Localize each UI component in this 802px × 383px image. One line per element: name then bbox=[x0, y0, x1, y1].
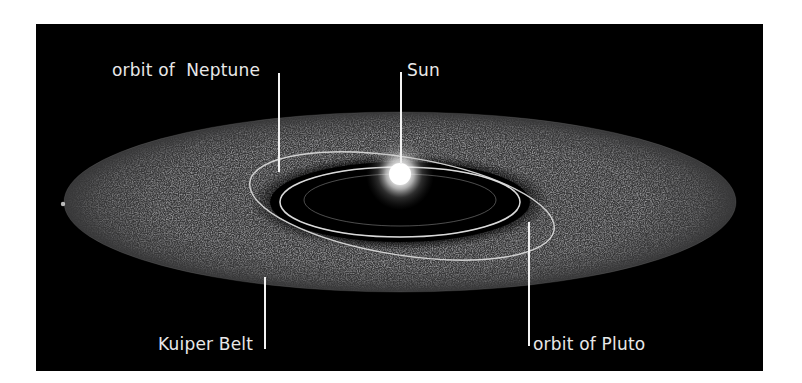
label-sun: Sun bbox=[407, 62, 440, 79]
kuiper-belt-figure: orbit of Neptune Sun Kuiper Belt orbit o… bbox=[0, 0, 802, 383]
leader-line-kuiper-belt bbox=[264, 277, 266, 349]
leader-line-neptune bbox=[278, 73, 280, 172]
stray-object-speck bbox=[61, 202, 65, 206]
label-orbit-of-pluto: orbit of Pluto bbox=[533, 336, 645, 353]
leader-line-sun bbox=[400, 72, 402, 164]
leader-line-pluto bbox=[528, 222, 530, 346]
label-orbit-of-neptune: orbit of Neptune bbox=[112, 62, 260, 79]
label-kuiper-belt: Kuiper Belt bbox=[158, 336, 253, 353]
diagram-panel: orbit of Neptune Sun Kuiper Belt orbit o… bbox=[36, 24, 763, 371]
